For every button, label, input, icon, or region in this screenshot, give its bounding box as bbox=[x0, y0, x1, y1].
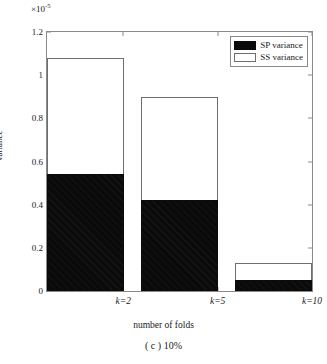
figure-panel: ×10-5 0 0.2 0.4 0.6 0.8 1 1.2 bbox=[0, 0, 327, 364]
y-tick-label-0.2: 0.2 bbox=[32, 243, 47, 253]
bar-sp-k5 bbox=[141, 200, 218, 291]
x-tick-label-k2: k=2 bbox=[116, 296, 131, 306]
y-axis-exponent-power: -5 bbox=[45, 2, 50, 9]
x-tick-label-k5: k=5 bbox=[210, 296, 225, 306]
legend-item-ss-variance: SS variance bbox=[234, 52, 303, 63]
bar-sp-k10 bbox=[235, 280, 312, 291]
y-tick-label-0.4: 0.4 bbox=[32, 200, 47, 210]
y-tick-label-0.6: 0.6 bbox=[32, 157, 47, 167]
legend-item-sp-variance: SP variance bbox=[234, 40, 303, 51]
y-axis-title: variance bbox=[0, 131, 4, 161]
y-tick-label-1: 1 bbox=[39, 70, 48, 80]
figure-caption: ( c ) 10% bbox=[0, 340, 327, 351]
chart-legend: SP variance SS variance bbox=[230, 36, 308, 67]
x-axis-title: number of folds bbox=[0, 320, 327, 330]
y-tick-label-0: 0 bbox=[39, 286, 48, 296]
y-axis-exponent-base: ×10 bbox=[31, 4, 45, 14]
legend-label-ss: SS variance bbox=[260, 53, 303, 62]
x-tick-label-k10: k=10 bbox=[302, 296, 322, 306]
y-tick-label-0.8: 0.8 bbox=[32, 113, 47, 123]
bar-sp-k2 bbox=[47, 174, 124, 291]
plot-area: 0 0.2 0.4 0.6 0.8 1 1.2 k=2 bbox=[46, 31, 313, 292]
legend-label-sp: SP variance bbox=[260, 41, 302, 50]
legend-swatch-sp-icon bbox=[234, 41, 256, 50]
y-axis-exponent: ×10-5 bbox=[31, 2, 51, 14]
legend-swatch-ss-icon bbox=[234, 53, 256, 62]
y-tick-label-1.2: 1.2 bbox=[32, 27, 47, 37]
